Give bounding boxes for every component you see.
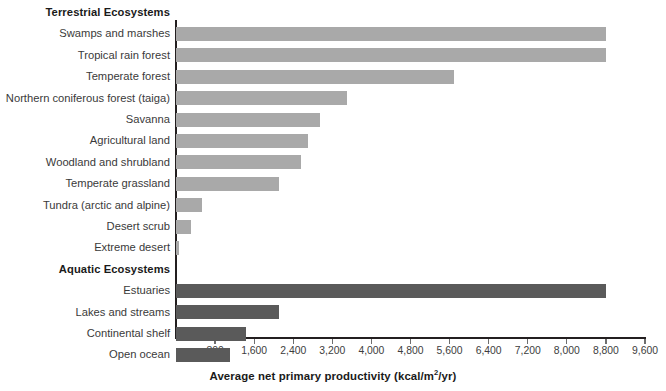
x-tick-label: 2,400 <box>280 345 306 356</box>
x-tick-mark <box>605 339 606 344</box>
bar <box>176 113 320 127</box>
x-tick-mark <box>566 339 567 344</box>
x-tick-mark <box>488 339 489 344</box>
bar <box>176 198 202 212</box>
bar <box>176 348 230 362</box>
bar-row-label: Temperate forest <box>0 66 174 87</box>
bar-row-label: Lakes and streams <box>0 302 174 323</box>
x-tick-label: 4,000 <box>358 345 384 356</box>
bar <box>176 241 179 255</box>
x-axis-title: Average net primary productivity (kcal/m… <box>0 368 666 382</box>
x-tick-mark <box>293 339 294 344</box>
x-tick-mark <box>410 339 411 344</box>
x-tick-label: 8,000 <box>554 345 580 356</box>
group-header-label: Terrestrial Ecosystems <box>0 2 174 23</box>
x-tick-mark <box>449 339 450 344</box>
x-tick-mark <box>644 339 645 344</box>
x-tick-label: 7,200 <box>515 345 541 356</box>
bar <box>176 305 279 319</box>
bar-row-label: Continental shelf <box>0 323 174 344</box>
x-tick-label: 5,600 <box>437 345 463 356</box>
x-tick-label: 8,800 <box>593 345 619 356</box>
bar-row-label: Temperate grassland <box>0 173 174 194</box>
bar <box>176 48 606 62</box>
group-header-label: Aquatic Ecosystems <box>0 259 174 280</box>
bar-row-label: Agricultural land <box>0 130 174 151</box>
bar <box>176 177 279 191</box>
bar <box>176 70 454 84</box>
x-tick-label: 4,800 <box>397 345 423 356</box>
bar <box>176 155 301 169</box>
superscript-two: 2 <box>434 368 438 377</box>
bar <box>176 134 308 148</box>
bar-row-label: Woodland and shrubland <box>0 152 174 173</box>
x-tick-label: 1,600 <box>241 345 267 356</box>
bar <box>176 27 606 41</box>
bar-row-label: Desert scrub <box>0 216 174 237</box>
bar-row-label: Savanna <box>0 109 174 130</box>
bar <box>176 220 191 234</box>
x-tick-mark <box>254 339 255 344</box>
bar-row-label: Northern coniferous forest (taiga) <box>0 88 174 109</box>
x-tick-mark <box>371 339 372 344</box>
x-tick-label: 9,600 <box>632 345 658 356</box>
x-tick-label: 6,400 <box>476 345 502 356</box>
bar <box>176 91 347 105</box>
bar-row-label: Open ocean <box>0 344 174 365</box>
x-tick-mark <box>332 339 333 344</box>
bar-row-label: Swamps and marshes <box>0 23 174 44</box>
x-tick-mark <box>527 339 528 344</box>
bar-chart: 8001,6002,4003,2004,0004,8005,6006,4007,… <box>0 0 666 391</box>
bar <box>176 284 606 298</box>
bar <box>176 327 246 341</box>
bar-row-label: Tropical rain forest <box>0 45 174 66</box>
bar-row-label: Tundra (arctic and alpine) <box>0 195 174 216</box>
bar-row-label: Estuaries <box>0 280 174 301</box>
bar-row-label: Extreme desert <box>0 237 174 258</box>
x-tick-label: 3,200 <box>319 345 345 356</box>
